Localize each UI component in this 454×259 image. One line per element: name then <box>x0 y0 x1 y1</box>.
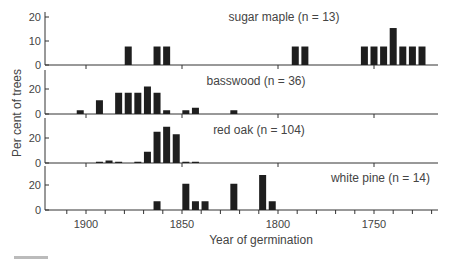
bar <box>409 47 416 65</box>
bar <box>182 110 189 114</box>
bar <box>259 175 266 210</box>
bar <box>361 47 368 65</box>
panel-basswood: 020basswood (n = 36) <box>29 70 438 120</box>
bar <box>125 47 132 65</box>
y-tick-label: 10 <box>29 35 41 47</box>
panel-label: basswood (n = 36) <box>206 74 305 88</box>
y-tick-label: 0 <box>35 59 41 71</box>
bar <box>269 201 276 210</box>
bar <box>134 93 141 114</box>
bar <box>96 162 103 163</box>
bar <box>230 184 237 210</box>
bar <box>144 152 151 163</box>
bar <box>163 127 170 163</box>
bar <box>163 110 170 114</box>
x-axis: 1900185018001750 <box>67 210 432 230</box>
bar <box>154 201 161 210</box>
panel-white-pine: 020white pine (n = 14) <box>29 166 438 216</box>
panel-sugar-maple: 01020sugar maple (n = 13) <box>29 10 438 71</box>
bar <box>115 93 122 114</box>
bar <box>173 134 180 163</box>
bar <box>380 47 387 65</box>
bar <box>182 162 189 163</box>
bar <box>292 47 299 65</box>
y-tick-label: 20 <box>29 179 41 191</box>
bar <box>301 47 308 65</box>
panel-label: red oak (n = 104) <box>213 123 305 137</box>
bar <box>154 47 161 65</box>
bar <box>125 93 132 114</box>
bar <box>192 201 199 210</box>
bar <box>371 47 378 65</box>
y-tick-label: 20 <box>29 11 41 23</box>
panels: 01020sugar maple (n = 13)020basswood (n … <box>29 10 438 216</box>
x-axis-label: Year of germination <box>209 233 313 247</box>
germination-chart: 01020sugar maple (n = 13)020basswood (n … <box>0 0 454 259</box>
y-axis-label: Per cent of trees <box>10 69 24 157</box>
bar <box>192 162 199 163</box>
x-tick-label: 1850 <box>170 218 194 230</box>
y-tick-label: 0 <box>35 157 41 169</box>
bar <box>182 184 189 210</box>
y-tick-label: 20 <box>29 83 41 95</box>
bar <box>419 47 426 65</box>
bar <box>154 132 161 163</box>
x-tick-label: 1750 <box>362 218 386 230</box>
bar <box>202 201 209 210</box>
y-tick-label: 0 <box>35 108 41 120</box>
bar <box>399 47 406 65</box>
bar <box>163 47 170 65</box>
x-tick-label: 1800 <box>266 218 290 230</box>
x-tick-label: 1900 <box>74 218 98 230</box>
bar <box>230 110 237 114</box>
panel-red-oak: 020red oak (n = 104) <box>29 118 438 169</box>
panel-label: sugar maple (n = 13) <box>228 10 339 24</box>
bar <box>144 87 151 115</box>
bar <box>115 162 122 163</box>
bar <box>192 108 199 114</box>
bar <box>106 161 113 164</box>
y-tick-label: 20 <box>29 132 41 144</box>
bar <box>154 93 161 114</box>
panel-label: white pine (n = 14) <box>330 171 430 185</box>
bar <box>134 162 141 163</box>
bar <box>390 28 397 65</box>
bar <box>77 110 84 114</box>
y-tick-label: 0 <box>35 204 41 216</box>
bar <box>96 100 103 114</box>
